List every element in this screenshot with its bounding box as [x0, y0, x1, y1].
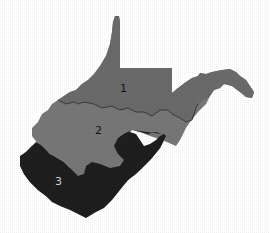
region-3-label: 3	[55, 176, 62, 187]
region-2-label: 2	[95, 125, 102, 136]
map-container: 1 2 3	[0, 0, 270, 233]
west-virginia-map	[0, 0, 270, 233]
region-1-label: 1	[120, 83, 127, 94]
